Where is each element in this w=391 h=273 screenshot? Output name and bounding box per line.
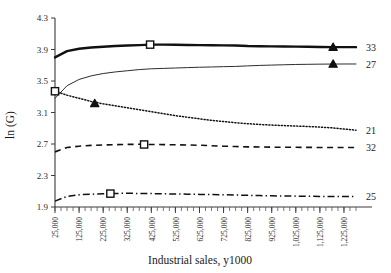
series-line-33: [55, 45, 356, 58]
x-tick-label: 725,000: [220, 217, 229, 242]
y-tick-label: 2.3: [37, 171, 49, 181]
series-label-32: 32: [366, 142, 376, 153]
marker-square-21: [51, 88, 58, 95]
series-line-25: [55, 193, 356, 201]
x-tick-label: 1,025,000: [292, 217, 301, 247]
x-tick-label: 25,000: [51, 217, 60, 238]
x-tick-label: 425,000: [148, 217, 157, 242]
x-tick-label: 225,000: [99, 217, 108, 242]
x-tick-label: 325,000: [123, 217, 132, 242]
series-label-25: 25: [366, 191, 376, 202]
x-axis-title: Industrial sales, y1000: [148, 254, 252, 267]
series-lines: [55, 45, 356, 201]
x-tick-label: 125,000: [75, 217, 84, 242]
marker-square-25: [107, 190, 114, 197]
y-tick-label: 3.9: [37, 45, 49, 55]
x-tick-label: 925,000: [268, 217, 277, 242]
x-tick-label: 525,000: [172, 217, 181, 242]
marker-square-33: [147, 41, 154, 48]
y-tick-label: 3.5: [37, 76, 49, 86]
series-label-21: 21: [366, 125, 376, 136]
series-line-32: [55, 144, 356, 152]
x-tick-label: 825,000: [244, 217, 253, 242]
y-axis: 4.33.93.53.12.72.31.9: [37, 13, 55, 212]
x-tick-label: 1,125,000: [316, 217, 325, 247]
line-chart: 4.33.93.53.12.72.31.9 25,000125,000225,0…: [0, 0, 391, 273]
series-label-27: 27: [366, 59, 376, 70]
series-line-27: [55, 64, 356, 98]
y-tick-label: 4.3: [37, 13, 49, 23]
chart-figure: 4.33.93.53.12.72.31.9 25,000125,000225,0…: [0, 0, 391, 273]
y-tick-label: 3.1: [37, 108, 48, 118]
series-label-33: 33: [366, 42, 376, 53]
x-tick-label: 1,225,000: [340, 217, 349, 247]
series-labels: 3327213225: [366, 42, 376, 202]
y-tick-label: 2.7: [37, 139, 49, 149]
x-tick-label: 625,000: [196, 217, 205, 242]
y-axis-title: ln (G): [4, 111, 17, 139]
series-line-21: [55, 91, 356, 130]
y-tick-label: 1.9: [37, 202, 49, 212]
x-axis: 25,000125,000225,000325,000425,000525,00…: [51, 207, 372, 247]
marker-square-32: [140, 141, 147, 148]
